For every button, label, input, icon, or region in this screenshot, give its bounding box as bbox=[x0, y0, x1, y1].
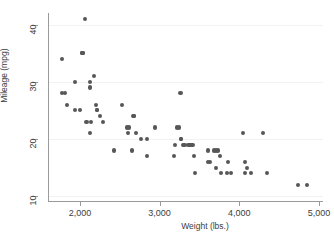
data-point bbox=[296, 183, 300, 187]
x-axis: Weight (lbs.) 2,0003,0004,0005,000 bbox=[0, 202, 334, 250]
data-point bbox=[243, 171, 247, 175]
x-tick-mark bbox=[239, 202, 240, 206]
data-point bbox=[229, 171, 233, 175]
data-point bbox=[241, 131, 245, 135]
data-point bbox=[153, 125, 157, 129]
data-point bbox=[265, 171, 269, 175]
data-point bbox=[130, 148, 134, 152]
data-point bbox=[245, 166, 249, 170]
data-point bbox=[88, 131, 92, 135]
data-point bbox=[60, 57, 64, 61]
data-point bbox=[243, 160, 247, 164]
data-point bbox=[219, 171, 223, 175]
data-point bbox=[305, 183, 309, 187]
scatter-chart-figure: Mileage (mpg) 10203040 Weight (lbs.) 2,0… bbox=[0, 0, 334, 250]
data-point bbox=[88, 80, 92, 84]
x-tick-mark bbox=[80, 202, 81, 206]
x-tick-mark bbox=[160, 202, 161, 206]
data-point bbox=[134, 131, 138, 135]
data-point bbox=[63, 91, 67, 95]
data-point bbox=[94, 103, 98, 107]
data-point bbox=[226, 160, 230, 164]
x-axis-title-text: Weight (lbs.) bbox=[181, 221, 229, 231]
data-point bbox=[98, 114, 102, 118]
data-point bbox=[73, 108, 77, 112]
data-point bbox=[127, 125, 131, 129]
data-point bbox=[80, 51, 84, 55]
data-point bbox=[145, 137, 149, 141]
x-tick-label: 5,000 bbox=[308, 208, 331, 218]
data-point bbox=[132, 114, 136, 118]
x-axis-title: Weight (lbs.) bbox=[0, 221, 334, 231]
data-point bbox=[92, 74, 96, 78]
x-tick-label: 2,000 bbox=[69, 208, 92, 218]
data-points-layer bbox=[49, 13, 323, 201]
data-point bbox=[101, 120, 105, 124]
data-point bbox=[95, 108, 99, 112]
data-point bbox=[178, 91, 182, 95]
y-tick-label: 20 bbox=[29, 139, 38, 149]
y-axis-title: Mileage (mpg) bbox=[0, 49, 9, 103]
data-point bbox=[206, 148, 210, 152]
data-point bbox=[78, 108, 82, 112]
data-point bbox=[173, 143, 177, 147]
data-point bbox=[84, 120, 88, 124]
data-point bbox=[179, 137, 183, 141]
data-point bbox=[190, 143, 194, 147]
data-point bbox=[89, 120, 93, 124]
data-point bbox=[73, 80, 77, 84]
x-tick-mark bbox=[319, 202, 320, 206]
y-tick-label: 30 bbox=[29, 81, 38, 91]
data-point bbox=[208, 160, 212, 164]
data-point bbox=[126, 131, 130, 135]
data-point bbox=[193, 171, 197, 175]
data-point bbox=[192, 154, 196, 158]
data-point bbox=[214, 166, 218, 170]
data-point bbox=[112, 148, 116, 152]
data-point bbox=[120, 103, 124, 107]
x-tick-label: 3,000 bbox=[148, 208, 171, 218]
data-point bbox=[88, 85, 92, 89]
data-point bbox=[139, 137, 143, 141]
data-point bbox=[216, 148, 220, 152]
data-point bbox=[172, 154, 176, 158]
data-point bbox=[249, 171, 253, 175]
data-point bbox=[145, 154, 149, 158]
y-tick-label: 40 bbox=[29, 24, 38, 34]
plot-area bbox=[48, 13, 323, 202]
data-point bbox=[261, 131, 265, 135]
data-point bbox=[83, 17, 87, 21]
data-point bbox=[177, 125, 181, 129]
data-point bbox=[218, 154, 222, 158]
x-tick-label: 4,000 bbox=[228, 208, 251, 218]
data-point bbox=[65, 103, 69, 107]
